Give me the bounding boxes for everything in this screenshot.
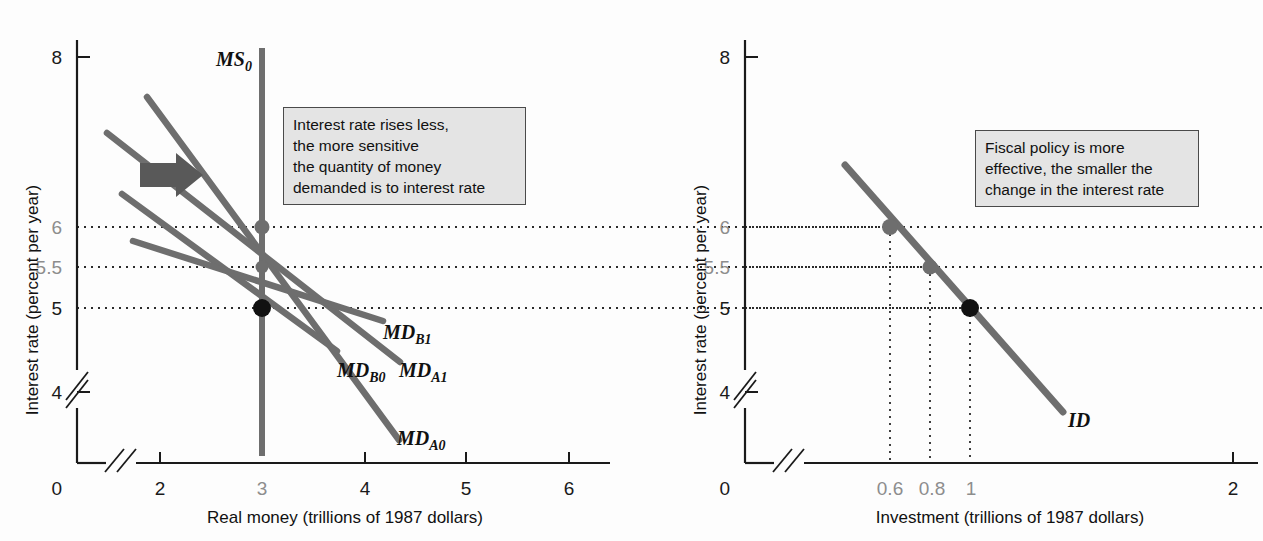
curve-label-mda1: MDA1 (398, 359, 448, 385)
callout-right: Fiscal policy is more effective, the sma… (975, 130, 1199, 207)
curve-label-ms0: MS0 (215, 48, 252, 74)
callout-left: Interest rate rises less, the more sensi… (283, 107, 526, 205)
y-tick-label-4-right: 4 (719, 382, 730, 403)
x-axis-break-mark-right-2 (785, 449, 804, 472)
x-tick-label-6-left: 6 (564, 478, 575, 499)
callout-right-line2: effective, the smaller the (985, 158, 1190, 179)
y-axis-break-mark-2 (66, 380, 88, 408)
x-tick-label-5-left: 5 (461, 478, 472, 499)
curve-label-mdb0: MDB0 (336, 359, 386, 385)
x-tick-label-3-left: 3 (257, 478, 268, 499)
y-axis-title-left: Interest rate (percent per year) (23, 185, 42, 416)
x-axis-break-mark-right-1 (773, 449, 792, 472)
y-tick-label-5-left: 5 (51, 298, 62, 319)
x-tick-label-0p6-right: 0.6 (877, 478, 903, 499)
y-axis-break-mark-right-2 (734, 380, 756, 408)
callout-left-line2: the more sensitive (293, 135, 517, 156)
point-equilibrium-5p5[interactable] (256, 261, 269, 274)
y-tick-label-5-right: 5 (719, 298, 730, 319)
callout-right-line1: Fiscal policy is more (985, 137, 1190, 158)
figure-canvas: 8 6 5.5 5 4 0 2 3 4 5 6 MS0 MDB1 MDB0 MD… (0, 0, 1263, 541)
point-equilibrium-5[interactable] (253, 299, 271, 317)
curve-label-id: ID (1067, 409, 1090, 431)
point-investment-5[interactable] (961, 299, 979, 317)
y-axis-break-mark-right-1 (734, 372, 756, 400)
y-tick-label-0-right: 0 (719, 478, 730, 499)
y-tick-label-0-left: 0 (51, 478, 62, 499)
x-axis-title-right: Investment (trillions of 1987 dollars) (876, 508, 1144, 527)
x-tick-label-1-right: 1 (966, 478, 977, 499)
left-panel-points (253, 220, 271, 318)
x-tick-label-2-left: 2 (155, 478, 166, 499)
callout-left-line4: demanded is to interest rate (293, 177, 517, 198)
spacer (149, 426, 366, 434)
economics-figure: 8 6 5.5 5 4 0 2 3 4 5 6 MS0 MDB1 MDB0 MD… (0, 0, 1263, 541)
curve-label-mda0: MDA0 (396, 427, 446, 453)
y-tick-label-6-right: 6 (719, 217, 730, 238)
right-panel-tick-labels: 8 6 5.5 5 4 0 0.6 0.8 1 2 (704, 47, 1239, 499)
right-panel-axes (734, 40, 1258, 472)
y-tick-label-8-left: 8 (51, 47, 62, 68)
callout-right-line3: change in the interest rate (985, 179, 1190, 200)
x-tick-label-0p8-right: 0.8 (919, 478, 945, 499)
y-tick-label-4-left: 4 (51, 382, 62, 403)
x-tick-label-4-left: 4 (360, 478, 371, 499)
left-panel-axes (66, 40, 610, 472)
x-axis-break-mark-1 (105, 449, 124, 472)
callout-left-line3: the quantity of money (293, 156, 517, 177)
y-tick-label-6-left: 6 (51, 217, 62, 238)
y-axis-title-right: Interest rate (percent per year) (691, 185, 710, 416)
point-investment-6[interactable] (882, 219, 898, 235)
curve-label-mdb1: MDB1 (382, 321, 432, 347)
x-axis-title-left: Real money (trillions of 1987 dollars) (207, 508, 483, 527)
y-tick-label-8-right: 8 (719, 47, 730, 68)
point-equilibrium-6[interactable] (255, 220, 270, 235)
point-investment-5p5[interactable] (923, 260, 938, 275)
x-tick-label-2-right: 2 (1228, 478, 1239, 499)
right-panel-gridlines (745, 227, 970, 463)
y-axis-break-mark-1 (66, 372, 88, 400)
x-axis-break-mark-2 (117, 449, 136, 472)
callout-left-line1: Interest rate rises less, (293, 114, 517, 135)
